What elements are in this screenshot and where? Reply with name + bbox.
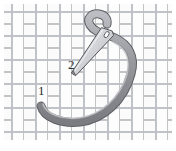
stitch-point-2-label: 2 bbox=[68, 58, 75, 71]
illustration-stage: 1 2 bbox=[0, 0, 176, 151]
stitch-point-1-label: 1 bbox=[38, 84, 45, 97]
stitch-diagram-svg bbox=[0, 0, 176, 151]
